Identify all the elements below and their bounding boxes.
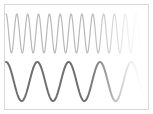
high-frequency-wave-path [6, 14, 147, 53]
plot-area [0, 0, 153, 114]
low-frequency-wave-path [6, 62, 147, 101]
waveform-chart-svg [0, 0, 153, 114]
figure-root [0, 0, 153, 114]
